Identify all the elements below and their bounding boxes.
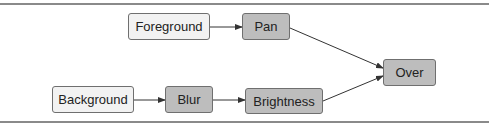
node-label: Foreground <box>135 19 202 34</box>
edge-brightness-over <box>323 76 383 101</box>
node-label: Brightness <box>253 94 314 109</box>
node-label: Blur <box>177 92 200 107</box>
node-label: Over <box>395 65 423 80</box>
node-label: Pan <box>254 19 277 34</box>
node-foreground: Foreground <box>128 13 210 40</box>
node-background: Background <box>52 86 134 113</box>
node-blur: Blur <box>165 86 213 113</box>
node-brightness: Brightness <box>245 88 323 114</box>
node-label: Background <box>58 92 127 107</box>
node-pan: Pan <box>242 13 290 40</box>
edge-pan-over <box>290 28 383 68</box>
node-over: Over <box>383 59 436 86</box>
